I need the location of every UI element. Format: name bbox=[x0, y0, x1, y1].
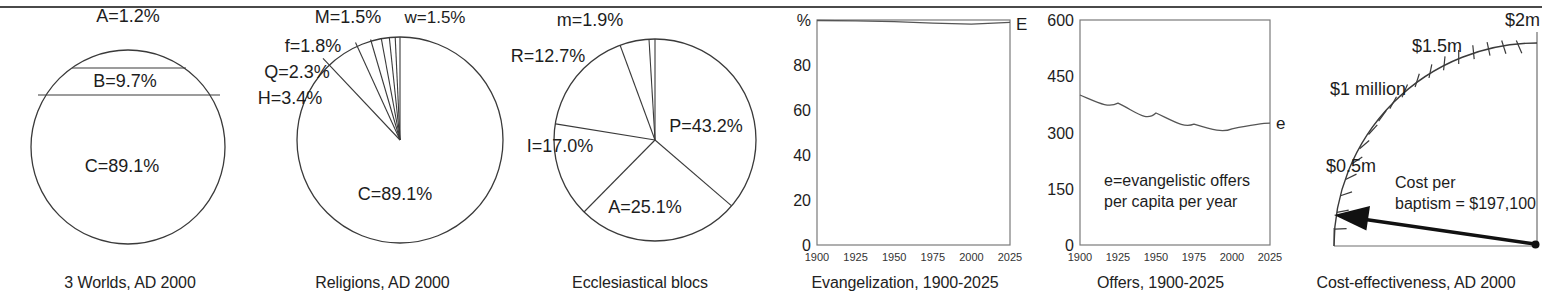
slice-label-c: C=89.1% bbox=[358, 184, 433, 204]
scale-label-1-5m: $1.5m bbox=[1412, 36, 1462, 56]
slice-label-a: A=1.2% bbox=[96, 6, 160, 26]
panel-three-worlds: A=1.2% B=9.7% C=89.1% 3 Worlds, AD 2000 bbox=[0, 0, 260, 308]
needle-arrowhead bbox=[1334, 206, 1370, 231]
panel-ecclesiastical: m=1.9% R=12.7% I=17.0% A=25.1% P=43.2% E… bbox=[500, 0, 780, 308]
offers-chart: 600 450 300 150 0 1900 1925 1950 1975 20… bbox=[1028, 0, 1293, 270]
panel-cost-effectiveness: $0.5m $1 million $1.5m $2m Cost per bapt… bbox=[1290, 0, 1542, 308]
y-tick-40: 40 bbox=[793, 147, 811, 164]
panel-offers: 600 450 300 150 0 1900 1925 1950 1975 20… bbox=[1028, 0, 1293, 308]
y-tick-80: 80 bbox=[793, 57, 811, 74]
x-tick-2025: 2025 bbox=[1258, 251, 1282, 263]
y-tick-300: 300 bbox=[1047, 125, 1074, 142]
slice-label-a: A=25.1% bbox=[608, 197, 682, 217]
three-worlds-chart: A=1.2% B=9.7% C=89.1% bbox=[0, 0, 260, 270]
slice-label-h: H=3.4% bbox=[258, 88, 323, 108]
slice-label-b: B=9.7% bbox=[93, 71, 157, 91]
panel-religions: M=1.5% w=1.5% f=1.8% Q=2.3% H=3.4% C=89.… bbox=[245, 0, 520, 308]
slice-label-w: w=1.5% bbox=[404, 8, 466, 27]
plot-area bbox=[1080, 20, 1270, 245]
scale-label-0-5m: $0.5m bbox=[1326, 156, 1376, 176]
plot-area bbox=[817, 20, 1010, 245]
needle-pivot bbox=[1532, 241, 1540, 249]
y-tick-60: 60 bbox=[793, 102, 811, 119]
series-line-E bbox=[817, 21, 1010, 25]
x-tick-2000: 2000 bbox=[959, 251, 983, 263]
series-endpoint-label-e: e bbox=[1276, 114, 1285, 133]
x-tick-2000: 2000 bbox=[1220, 251, 1244, 263]
ecclesiastical-chart: m=1.9% R=12.7% I=17.0% A=25.1% P=43.2% bbox=[500, 0, 780, 270]
slice-label-m: M=1.5% bbox=[315, 7, 382, 27]
x-tick-1925: 1925 bbox=[843, 251, 867, 263]
panel-evangelization: % 80 60 40 20 0 1900 1925 1950 1975 2000… bbox=[775, 0, 1035, 308]
y-tick-percent: % bbox=[797, 12, 811, 29]
needle-line bbox=[1362, 219, 1535, 244]
x-tick-1900: 1900 bbox=[805, 251, 829, 263]
evangelization-chart: % 80 60 40 20 0 1900 1925 1950 1975 2000… bbox=[775, 0, 1035, 270]
slice-label-p: P=43.2% bbox=[669, 116, 743, 136]
x-tick-1950: 1950 bbox=[1144, 251, 1168, 263]
scale-label-2m: $2m bbox=[1505, 10, 1540, 30]
caption-evangelization: Evangelization, 1900-2025 bbox=[775, 274, 1035, 292]
caption-ecclesiastical: Ecclesiastical blocs bbox=[500, 274, 780, 292]
y-tick-600: 600 bbox=[1047, 12, 1074, 29]
offers-annotation-line1: e=evangelistic offers bbox=[1104, 172, 1250, 189]
slice-label-m: m=1.9% bbox=[557, 10, 624, 30]
cost-annotation-line1: Cost per bbox=[1395, 174, 1456, 191]
caption-cost-effectiveness: Cost-effectiveness, AD 2000 bbox=[1290, 274, 1542, 292]
slice-label-r: R=12.7% bbox=[511, 46, 586, 66]
x-tick-1925: 1925 bbox=[1106, 251, 1130, 263]
series-line-e bbox=[1080, 95, 1270, 131]
slice-label-c: C=89.1% bbox=[85, 156, 160, 176]
x-tick-2025: 2025 bbox=[998, 251, 1022, 263]
caption-religions: Religions, AD 2000 bbox=[245, 274, 520, 292]
slice-label-f: f=1.8% bbox=[285, 36, 342, 56]
offers-annotation-line2: per capita per year bbox=[1104, 193, 1238, 210]
x-tick-1975: 1975 bbox=[1182, 251, 1206, 263]
x-tick-1950: 1950 bbox=[882, 251, 906, 263]
x-tick-1975: 1975 bbox=[921, 251, 945, 263]
y-tick-150: 150 bbox=[1047, 181, 1074, 198]
slice-label-q: Q=2.3% bbox=[264, 62, 330, 82]
caption-three-worlds: 3 Worlds, AD 2000 bbox=[0, 274, 260, 292]
x-tick-1900: 1900 bbox=[1068, 251, 1092, 263]
y-tick-20: 20 bbox=[793, 192, 811, 209]
series-endpoint-label-E: E bbox=[1016, 15, 1027, 34]
cost-effectiveness-chart: $0.5m $1 million $1.5m $2m Cost per bapt… bbox=[1290, 0, 1542, 270]
slice-label-i: I=17.0% bbox=[527, 136, 594, 156]
cost-annotation-line2: baptism = $197,100 bbox=[1395, 195, 1536, 212]
religions-chart: M=1.5% w=1.5% f=1.8% Q=2.3% H=3.4% C=89.… bbox=[245, 0, 520, 270]
scale-label-1m: $1 million bbox=[1330, 79, 1406, 99]
y-tick-450: 450 bbox=[1047, 68, 1074, 85]
caption-offers: Offers, 1900-2025 bbox=[1028, 274, 1293, 292]
